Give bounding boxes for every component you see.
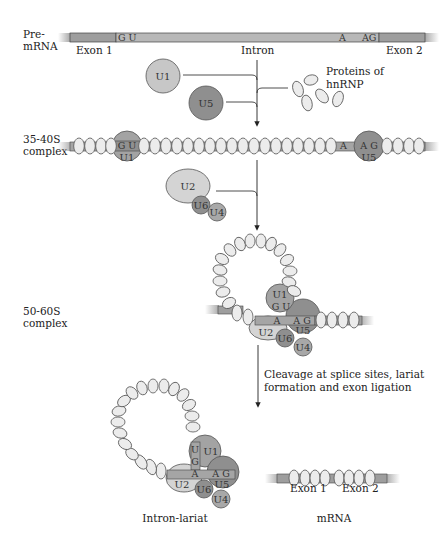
svg-text:A: A: [273, 315, 281, 326]
pre-mrna-label-1: Pre-: [23, 28, 45, 40]
svg-text:U4: U4: [296, 342, 311, 353]
u1-snrnp: U1: [146, 59, 180, 93]
svg-text:G: G: [191, 456, 199, 467]
svg-text:U4: U4: [214, 494, 229, 505]
svg-text:U1: U1: [204, 446, 219, 457]
exon2-label: Exon 2: [386, 44, 423, 56]
complex-35-40s-label-1: 35-40S: [23, 133, 60, 145]
svg-text:U6: U6: [194, 200, 209, 211]
step-description-1: Cleavage at splice sites, lariat: [264, 368, 425, 380]
mrna-exon2-label: Exon 2: [342, 482, 379, 494]
exon2-segment: [379, 33, 425, 42]
complex-35-40s-stage: 35-40S complex G U U1 A A G U5: [23, 131, 439, 163]
intron-lariat-label: Intron-lariat: [142, 512, 208, 524]
svg-text:A: A: [339, 140, 347, 151]
complex-50-60s-label-1: 50-60S: [23, 305, 60, 317]
gu-site: G U: [118, 32, 137, 43]
splicing-diagram: Pre- mRNA G U A AG Exon 1 Intron Exon 2 …: [0, 0, 445, 545]
svg-text:U6: U6: [197, 484, 212, 495]
svg-text:A G: A G: [211, 468, 229, 479]
intron-label: Intron: [241, 44, 274, 56]
svg-text:U6: U6: [278, 333, 293, 344]
mrna-product: Exon 1 Exon 2 mRNA: [265, 470, 400, 524]
exon1-label: Exon 1: [76, 44, 113, 56]
svg-text:U: U: [191, 444, 199, 455]
intron-lariat: U G U1 A A G U2 U5 U6 U4: [111, 379, 239, 524]
ag-site: AG: [361, 32, 376, 43]
hnrnp-label-2: hnRNP: [326, 78, 364, 90]
mrna-exon1-label: Exon 1: [290, 482, 327, 494]
mrna-label: mRNA: [317, 512, 352, 524]
svg-text:U5: U5: [296, 325, 311, 336]
step-description-2: formation and exon ligation: [264, 381, 412, 393]
spliceosome-complex: U1 G U A A G U2 U5 U6 U4: [205, 234, 374, 356]
svg-text:U2: U2: [175, 479, 190, 490]
complex-50-60s-label-2: complex: [23, 317, 67, 329]
u2-u6-u4-snrnps: U2 U6 U4: [166, 169, 226, 221]
svg-text:U1: U1: [156, 71, 171, 82]
svg-text:A: A: [191, 468, 199, 479]
exon1-segment: [70, 33, 116, 42]
svg-text:G U: G U: [272, 301, 291, 312]
svg-text:U5: U5: [362, 152, 377, 163]
svg-text:U2: U2: [259, 327, 274, 338]
u5-snrnp: U5: [189, 86, 223, 120]
svg-text:G U: G U: [118, 140, 137, 151]
svg-text:U1: U1: [273, 289, 288, 300]
svg-text:U1: U1: [120, 152, 135, 163]
svg-text:A G: A G: [359, 140, 377, 151]
hnrnp-proteins: Proteins of hnRNP: [291, 65, 385, 112]
pre-mrna-label-2: mRNA: [23, 40, 58, 52]
pre-mrna-stage: Pre- mRNA G U A AG Exon 1 Intron Exon 2: [23, 28, 439, 56]
branch-a: A: [338, 32, 346, 43]
svg-text:U5: U5: [215, 479, 230, 490]
svg-text:U4: U4: [210, 207, 225, 218]
svg-text:U2: U2: [181, 181, 196, 192]
svg-text:U5: U5: [199, 98, 214, 109]
hnrnp-label-1: Proteins of: [326, 65, 385, 77]
